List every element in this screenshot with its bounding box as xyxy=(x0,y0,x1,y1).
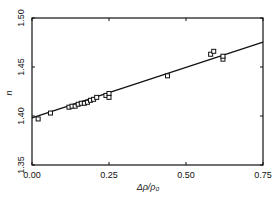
data-point-square xyxy=(166,74,170,78)
x-tick-label: 0.50 xyxy=(177,170,195,180)
axis-tick-labels: 0.000.250.500.751.351.401.451.50 xyxy=(16,9,272,180)
data-point-square xyxy=(36,117,40,121)
data-point-square xyxy=(212,49,216,53)
y-axis-label: n xyxy=(4,90,14,95)
axis-ticks xyxy=(32,18,263,165)
x-axis-label: Δρ/ρ₀ xyxy=(136,182,160,192)
data-point-square xyxy=(48,111,52,115)
y-tick-label: 1.35 xyxy=(16,156,26,174)
x-tick-label: 0.25 xyxy=(100,170,118,180)
y-tick-label: 1.40 xyxy=(16,107,26,125)
plot-frame xyxy=(32,18,263,165)
data-point-square xyxy=(221,54,225,58)
data-point-square xyxy=(107,95,111,99)
data-point-square xyxy=(95,95,99,99)
y-tick-label: 1.50 xyxy=(16,9,26,27)
chart: 0.000.250.500.751.351.401.451.50 Δρ/ρ₀ n xyxy=(0,0,276,198)
plot-border xyxy=(32,18,263,165)
y-tick-label: 1.45 xyxy=(16,58,26,76)
data-point-square xyxy=(107,91,111,95)
x-tick-label: 0.75 xyxy=(254,170,272,180)
